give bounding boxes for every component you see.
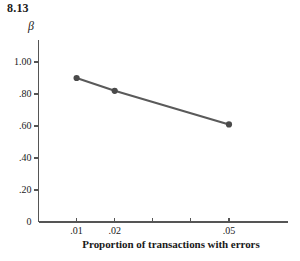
y-tick-label: 0	[27, 216, 32, 227]
data-series	[73, 75, 232, 128]
axes	[39, 40, 289, 222]
y-axis-ticks: 1.00.80.60.40.200	[14, 56, 39, 227]
x-tick-label: .05	[223, 225, 236, 236]
data-point-marker	[73, 75, 79, 81]
data-point-marker	[112, 88, 118, 94]
x-axis-title: Proportion of transactions with errors	[0, 237, 300, 251]
line-chart: 1.00.80.60.40.200 .01.02.05	[0, 0, 300, 261]
data-point-marker	[226, 121, 232, 127]
series-line-beta	[77, 78, 229, 124]
x-axis-ticks: .01.02.05	[70, 218, 235, 236]
y-tick-label: .40	[19, 152, 32, 163]
x-tick-label: .02	[108, 225, 121, 236]
y-tick-label: .60	[19, 120, 32, 131]
y-tick-label: .80	[19, 88, 32, 99]
figure-page: 8.13 β 1.00.80.60.40.200 .01.02.05 Propo…	[0, 0, 300, 261]
y-tick-label: 1.00	[14, 56, 32, 67]
x-tick-label: .01	[70, 225, 83, 236]
y-tick-label: .20	[19, 184, 32, 195]
